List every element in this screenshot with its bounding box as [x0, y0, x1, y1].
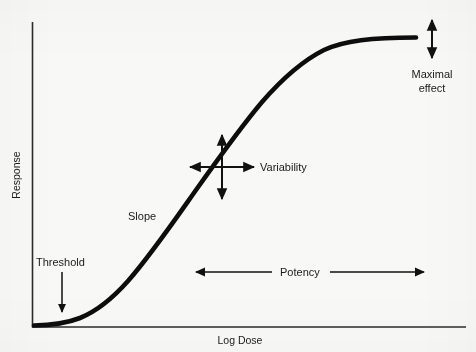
- maximal-effect-label-line2: effect: [419, 82, 446, 94]
- potency-label: Potency: [280, 266, 320, 278]
- threshold-label: Threshold: [36, 256, 85, 268]
- slope-label: Slope: [128, 210, 156, 222]
- dose-response-chart: Threshold Slope Variability Potency Maxi…: [0, 0, 476, 352]
- variability-label: Variability: [260, 161, 307, 173]
- y-axis-label: Response: [10, 151, 22, 198]
- x-axis-label: Log Dose: [218, 334, 263, 346]
- dose-response-figure: Threshold Slope Variability Potency Maxi…: [0, 0, 476, 352]
- maximal-effect-label-line1: Maximal: [412, 68, 453, 80]
- chart-background: [0, 0, 476, 352]
